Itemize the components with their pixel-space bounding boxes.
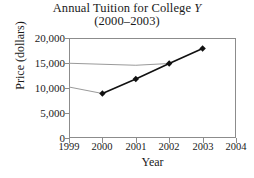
y-tick-label-5000: 5,000 <box>5 108 65 119</box>
x-axis-title: Year <box>69 155 236 170</box>
y-tick-label-15000: 15,000 <box>5 58 65 69</box>
chart-figure: Annual Tuition for College Y (2000–2003)… <box>0 0 254 178</box>
chart-title-text: Annual Tuition for College <box>53 1 195 15</box>
y-tick-label-20000: 20,000 <box>5 33 65 44</box>
plot-area <box>69 38 236 138</box>
chart-title-italic-y: Y <box>194 1 201 15</box>
chart-title-block: Annual Tuition for College Y (2000–2003) <box>0 2 254 28</box>
x-tick-label-2004: 2004 <box>216 141 254 152</box>
y-tick-label-10000: 10,000 <box>5 83 65 94</box>
chart-subtitle: (2000–2003) <box>0 15 254 28</box>
